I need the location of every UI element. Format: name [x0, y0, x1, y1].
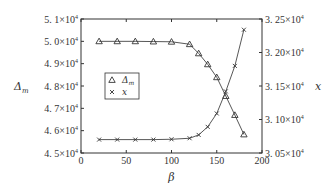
exponent: 4	[301, 14, 304, 20]
x-tick-label: 150	[209, 155, 224, 166]
legend-label-x: x	[122, 87, 127, 97]
y-right-tick-label: 3. 20×104	[265, 47, 304, 58]
exponent: 4	[75, 58, 78, 64]
cross-marker	[206, 125, 210, 129]
exponent: 4	[301, 47, 304, 53]
x-tick-label: 0	[79, 155, 84, 166]
y-left-tick-label: 4. 9×104	[44, 58, 78, 69]
exponent: 4	[75, 103, 78, 109]
exponent: 4	[75, 148, 78, 154]
y-left-tick-label: 4. 8×104	[44, 81, 78, 92]
y-right-tick-label: 3. 10×104	[265, 114, 304, 125]
y-left-tick-label: 4. 5×104	[44, 148, 78, 159]
exponent: 4	[75, 81, 78, 87]
y-left-tick-label: 5. 1×104	[44, 14, 78, 25]
y-left-tick-label: 4. 7×104	[44, 103, 78, 114]
y-right-tick-label: 3. 15×104	[265, 81, 304, 92]
cross-marker	[215, 111, 219, 115]
exponent: 4	[301, 148, 304, 154]
y-left-tick-label: 4. 6×104	[44, 125, 78, 136]
dual-axis-line-chart: 0501001502004. 5×1044. 6×1044. 7×1044. 8…	[0, 0, 332, 192]
subscript: m	[22, 87, 29, 95]
exponent: 4	[301, 114, 304, 120]
exponent: 4	[75, 125, 78, 131]
x-tick-label: 100	[164, 155, 179, 166]
exponent: 4	[301, 81, 304, 87]
y-right-tick-label: 3. 05×104	[265, 148, 304, 159]
exponent: 4	[75, 36, 78, 42]
y-left-tick-label: 5. 0×104	[44, 36, 78, 47]
cross-marker	[197, 133, 201, 137]
plot-area: 0501001502004. 5×1044. 6×1044. 7×1044. 8…	[13, 14, 322, 185]
y-left-axis-label: Δm	[13, 80, 29, 95]
x-axis-label: β	[167, 171, 174, 184]
subscript: m	[129, 79, 135, 86]
x-tick-label: 50	[121, 155, 131, 166]
exponent: 4	[75, 14, 78, 20]
y-right-tick-label: 3. 25×104	[265, 14, 304, 25]
y-right-axis-label: x	[315, 80, 322, 93]
